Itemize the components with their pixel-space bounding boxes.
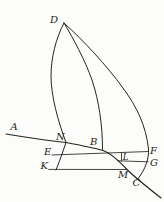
sail-curve-left-d-n-k xyxy=(51,23,66,170)
point-label-l: L xyxy=(122,152,129,162)
point-label-a: A xyxy=(10,121,18,132)
geometry-figure: D A N B E F L G K M C xyxy=(0,0,164,202)
segment-e-f xyxy=(52,152,149,156)
base-curve-a-to-c xyxy=(6,134,161,198)
figure-canvas: D A N B E F L G K M C xyxy=(0,0,164,202)
point-label-n: N xyxy=(55,131,66,142)
point-label-k: K xyxy=(40,160,49,171)
point-label-m: M xyxy=(117,169,129,180)
point-label-f: F xyxy=(149,145,158,156)
point-label-b: B xyxy=(89,136,97,147)
point-label-e: E xyxy=(43,146,52,157)
point-label-d: D xyxy=(49,14,58,25)
point-label-c: C xyxy=(133,177,141,188)
point-label-g: G xyxy=(150,157,158,168)
